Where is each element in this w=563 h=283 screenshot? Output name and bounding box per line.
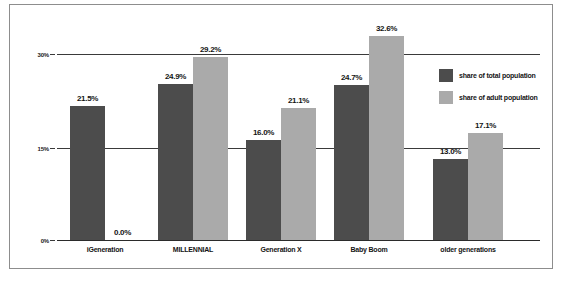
legend-label-total-population: share of total population (459, 72, 536, 79)
ytick-dash-15 (50, 148, 55, 149)
bar-value-label: 17.1% (475, 121, 496, 130)
bar-total-baby-boom[interactable]: 24.7% (334, 85, 369, 240)
bar-group-generation-x: 16.0% 21.1% Generation X (246, 45, 316, 240)
category-label-generation-x: Generation X (260, 246, 301, 253)
legend-item-total-population[interactable]: share of total population (439, 69, 538, 82)
ytick-label-0: 0% (41, 238, 49, 244)
bar-value-label: 24.7% (341, 73, 362, 82)
bar-value-label: 0.0% (114, 228, 131, 237)
bar-adult-generation-x[interactable]: 21.1% (281, 108, 316, 240)
bar-value-label: 24.9% (165, 72, 186, 81)
bar-adult-older-generations[interactable]: 17.1% (468, 133, 503, 240)
bar-group-millennial: 24.9% 29.2% MILLENNIAL (158, 45, 228, 240)
bar-value-label: 21.5% (77, 94, 98, 103)
legend-item-adult-population[interactable]: share of adult population (439, 91, 538, 104)
ytick-label-15: 15% (38, 146, 49, 152)
bar-total-older-generations[interactable]: 13.0% (433, 159, 468, 240)
ytick-dash-0 (50, 240, 55, 241)
bar-value-label: 32.6% (376, 24, 397, 33)
ytick-label-30: 30% (38, 52, 49, 58)
category-label-igeneration: iGeneration (87, 246, 124, 253)
bar-total-millennial[interactable]: 24.9% (158, 84, 193, 240)
bar-adult-baby-boom[interactable]: 32.6% (369, 36, 404, 240)
legend-swatch-dark (439, 69, 453, 82)
bar-value-label: 21.1% (288, 96, 309, 105)
bar-value-label: 16.0% (253, 128, 274, 137)
category-label-older-generations: older generations (440, 246, 495, 253)
category-label-millennial: MILLENNIAL (173, 246, 213, 253)
bar-total-igeneration[interactable]: 21.5% (70, 106, 105, 240)
legend-swatch-light (439, 91, 453, 104)
bar-group-baby-boom: 24.7% 32.6% Baby Boom (334, 45, 404, 240)
bar-group-igeneration: 21.5% 0.0% iGeneration (70, 45, 140, 240)
bar-total-generation-x[interactable]: 16.0% (246, 140, 281, 240)
chart-frame-border: 30% 15% 0% 21.5% 0.0% iGeneration (9, 4, 553, 269)
chart-legend: share of total population share of adult… (439, 69, 538, 113)
chart-figure: 30% 15% 0% 21.5% 0.0% iGeneration (0, 0, 563, 283)
legend-label-adult-population: share of adult population (459, 94, 538, 101)
bar-adult-millennial[interactable]: 29.2% (193, 57, 228, 240)
bar-value-label: 29.2% (200, 45, 221, 54)
category-label-baby-boom: Baby Boom (350, 246, 387, 253)
ytick-dash-30 (50, 54, 55, 55)
bar-value-label: 13.0% (440, 147, 461, 156)
gridline-0-axis: 0% (57, 240, 540, 241)
